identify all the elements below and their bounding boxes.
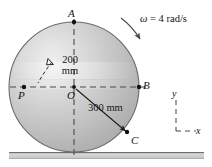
diagram-canvas: [0, 0, 212, 167]
axes-legend: [176, 100, 196, 131]
point-label-o: O: [67, 90, 75, 101]
angular-velocity-label: ω = 4 rad/s: [140, 14, 187, 25]
dimension-200-value: 200: [62, 54, 78, 65]
omega-value: = 4 rad/s: [147, 13, 186, 24]
figure-container: A B O P C 200 mm 300 mm ω = 4 rad/s y x: [0, 0, 212, 167]
dimension-label-200mm: 200 mm: [53, 55, 87, 76]
axis-label-y: y: [172, 89, 176, 99]
dimension-200-unit: mm: [62, 65, 78, 76]
point-label-p: P: [18, 90, 25, 101]
point-marker-B: [137, 85, 141, 89]
point-marker-C: [125, 130, 129, 134]
dimension-label-300mm: 300 mm: [88, 103, 123, 114]
point-label-c: C: [131, 135, 138, 146]
axis-label-x: x: [196, 126, 200, 136]
point-label-a: A: [68, 8, 75, 19]
ground-surface: [9, 153, 204, 159]
point-marker-A: [72, 20, 76, 24]
point-label-b: B: [143, 80, 150, 91]
omega-arrow: [121, 18, 140, 39]
